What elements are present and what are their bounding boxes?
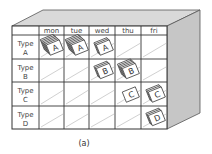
schedule-cube-diagram: montuewedthufri TypeATypeBTypeCTypeD AAA… bbox=[0, 0, 212, 154]
box-front-face bbox=[12, 26, 167, 129]
row-header-line2: B bbox=[23, 73, 28, 81]
column-header-thu: thu bbox=[122, 27, 134, 35]
row-header-line1: Type bbox=[16, 64, 33, 72]
row-header-line2: C bbox=[23, 96, 28, 104]
column-header-tue: tue bbox=[71, 27, 83, 35]
row-header-line2: D bbox=[23, 120, 28, 128]
row-header-line2: A bbox=[23, 49, 28, 57]
column-header-fri: fri bbox=[150, 27, 157, 35]
column-header-wed: wed bbox=[95, 27, 109, 35]
column-header-mon: mon bbox=[44, 27, 60, 35]
row-header-line1: Type bbox=[16, 40, 33, 48]
row-header-line1: Type bbox=[16, 87, 33, 95]
box-side-face bbox=[167, 10, 200, 129]
figure-caption: (a) bbox=[78, 139, 89, 148]
row-header-line1: Type bbox=[16, 111, 33, 119]
